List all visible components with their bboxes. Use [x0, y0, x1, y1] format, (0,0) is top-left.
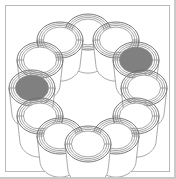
figure-root: [0, 0, 176, 179]
cup: [65, 126, 111, 179]
page-edge-right: [174, 0, 176, 179]
page-edge-bottom: [0, 177, 176, 179]
cups-illustration: [0, 0, 176, 179]
cups-group: [9, 14, 167, 179]
